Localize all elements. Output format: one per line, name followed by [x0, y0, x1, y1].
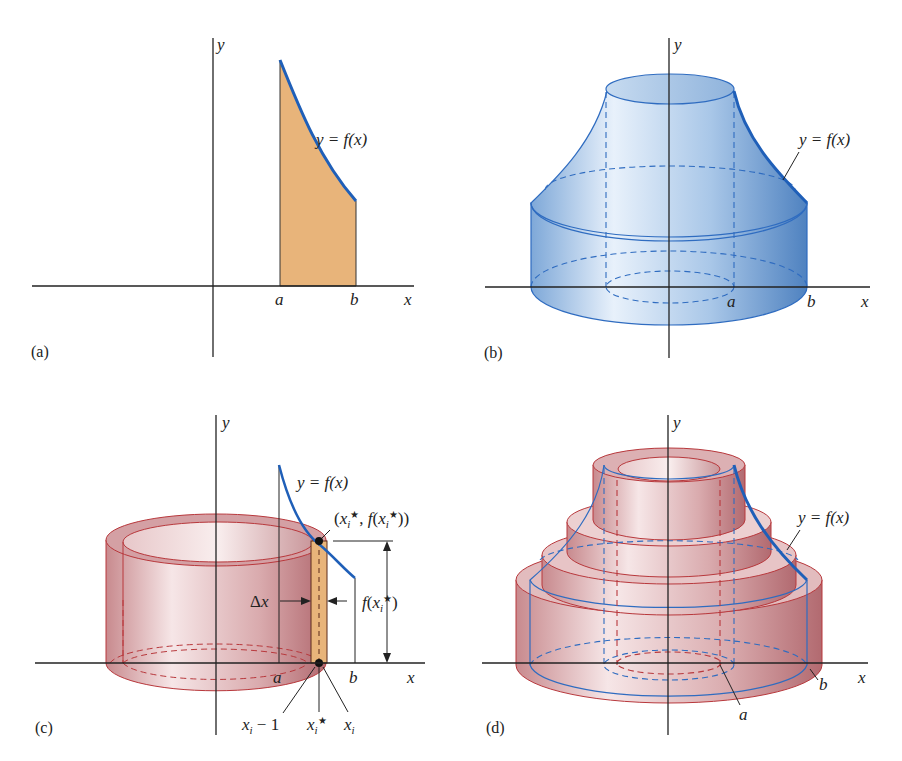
- shaded-region: [280, 60, 356, 286]
- shell-inner-opening: [123, 522, 313, 562]
- tick-a: a: [275, 290, 284, 309]
- panel-label-d: (d): [486, 719, 505, 737]
- figure-canvas: y x a b y = f(x) (a) y x a b y = f(: [0, 0, 902, 761]
- delta-x-label: Δx: [250, 592, 269, 611]
- panel-label-c: (c): [35, 719, 53, 737]
- x-axis-label: x: [857, 668, 866, 687]
- panel-label-b: (b): [484, 344, 503, 362]
- y-axis-label: y: [671, 413, 681, 432]
- label-x-i-minus-1: xi − 1: [241, 715, 279, 736]
- tick-b: b: [819, 675, 828, 694]
- point-label: (xi★, f(xi★)): [334, 509, 409, 530]
- tick-a: a: [739, 705, 748, 724]
- curve-leader: [783, 152, 799, 180]
- x-axis-label: x: [860, 292, 869, 311]
- curve-label: y = f(x): [295, 473, 348, 492]
- panel-d: y x a b y = f(x) (d): [482, 413, 868, 737]
- curve-label: y = f(x): [314, 130, 367, 149]
- x-axis-label: x: [403, 290, 412, 309]
- tick-b: b: [350, 290, 359, 309]
- y-axis-label: y: [672, 35, 682, 54]
- tick-b: b: [807, 292, 816, 311]
- panel-b: y x a b y = f(x) (b): [484, 35, 870, 362]
- curve-label: y = f(x): [797, 130, 850, 149]
- curve-label: y = f(x): [796, 508, 849, 527]
- y-axis-label: y: [220, 413, 230, 432]
- y-axis-label: y: [215, 35, 225, 54]
- label-x-i: xi: [343, 715, 355, 736]
- panel-c: y x a b y = f(x) (xi★, f(xi★)) f(xi★) Δx…: [35, 413, 425, 737]
- height-label: f(xi★): [362, 593, 398, 614]
- x-axis-label: x: [406, 668, 415, 687]
- tick-a: a: [273, 668, 282, 687]
- curve-leader: [787, 530, 800, 550]
- label-x-i-star: xi★: [306, 715, 327, 736]
- point-top: [315, 537, 323, 545]
- tick-b: b: [349, 668, 358, 687]
- panel-a: y x a b y = f(x) (a): [31, 35, 414, 361]
- solid-top-face: [606, 74, 734, 104]
- panel-label-a: (a): [31, 343, 49, 361]
- tick-a: a: [727, 292, 736, 311]
